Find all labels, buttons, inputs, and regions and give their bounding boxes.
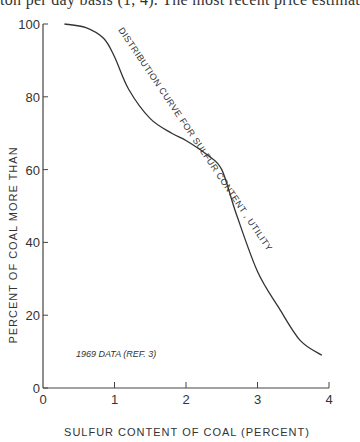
axis-ticks: 02040608010001234 <box>18 17 332 407</box>
x-tick-label: 1 <box>111 392 118 407</box>
x-tick-label: 2 <box>182 392 189 407</box>
axes <box>43 24 329 388</box>
y-tick-label: 20 <box>26 308 40 323</box>
y-tick-label: 100 <box>18 17 40 32</box>
y-tick-label: 40 <box>26 235 40 250</box>
x-axis-title: SULFUR CONTENT OF COAL (PERCENT) <box>64 426 310 438</box>
curve-annotation: DISTRIBUTION CURVE FOR SULFUR CONTENT , … <box>116 26 274 254</box>
y-tick-label: 80 <box>26 90 40 105</box>
x-tick-label: 4 <box>325 392 332 407</box>
x-tick-label: 3 <box>254 392 261 407</box>
x-tick-label: 0 <box>39 392 46 407</box>
data-source-note: 1969 DATA (REF. 3) <box>76 349 156 359</box>
y-axis-title: PERCENT OF COAL MORE THAN <box>7 146 19 343</box>
distribution-curve <box>64 24 321 355</box>
y-tick-label: 60 <box>26 163 40 178</box>
